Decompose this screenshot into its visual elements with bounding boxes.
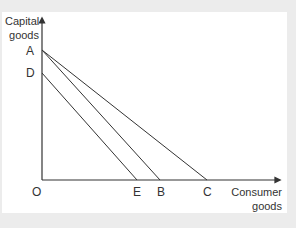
y-axis-label-line2: goods: [5, 29, 39, 41]
point-d-label: D: [26, 67, 35, 79]
point-c-label: C: [203, 186, 212, 198]
y-axis-label-line1: Capital: [5, 15, 39, 27]
x-axis-label-line2: goods: [228, 200, 282, 212]
point-e-label: E: [133, 186, 141, 198]
line-d-e: [42, 73, 137, 180]
point-a-label: A: [26, 45, 34, 57]
line-a-c: [42, 50, 207, 180]
point-b-label: B: [157, 186, 165, 198]
x-axis-label-line1: Consumer: [228, 186, 282, 198]
origin-label: O: [32, 186, 41, 198]
line-a-b: [42, 50, 160, 180]
